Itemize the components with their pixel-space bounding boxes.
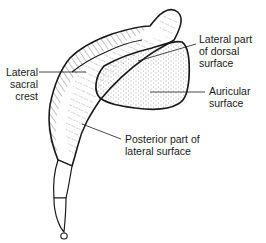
label-line: sacral [4, 78, 38, 90]
coccyx-segment-2 [54, 198, 66, 232]
label-line: surface [199, 57, 252, 69]
top-lobe-hatching [159, 13, 178, 38]
label-lateral-part-dorsal-surface: Lateral part of dorsal surface [199, 33, 252, 69]
label-lateral-sacral-crest: Lateral sacral crest [4, 66, 38, 102]
label-line: Lateral part [199, 33, 252, 45]
label-auricular-surface: Auricular surface [209, 85, 250, 109]
coccyx-segment-1 [54, 160, 72, 198]
label-line: lateral surface [125, 145, 200, 157]
label-line: of dorsal [199, 45, 252, 57]
label-line: Lateral [4, 66, 38, 78]
label-line: Auricular [209, 85, 250, 97]
sacrum-diagram: Lateral sacral crest Lateral part of dor… [0, 0, 266, 243]
label-line: crest [4, 90, 38, 102]
label-posterior-part-lateral-surface: Posterior part of lateral surface [125, 133, 200, 157]
label-line: surface [209, 97, 250, 109]
coccyx-tip [61, 233, 67, 239]
leader-posterior-part-lateral-surface [82, 124, 121, 139]
label-line: Posterior part of [125, 133, 200, 145]
